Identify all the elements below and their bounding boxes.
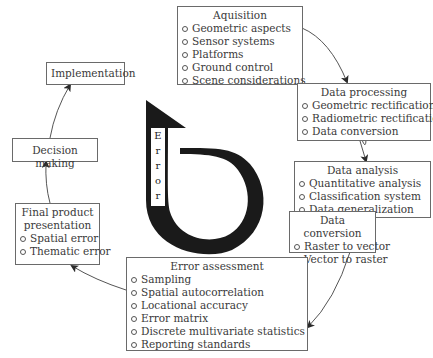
bullet-icon xyxy=(302,103,308,109)
bullet-icon xyxy=(302,129,308,135)
list-item: Radiometric rectification xyxy=(302,112,426,125)
data-conversion-box: Data conversion Raster to vector Vector … xyxy=(289,211,376,253)
bullet-icon xyxy=(294,244,300,250)
decision-making-title: Decision making xyxy=(17,144,93,170)
bullet-icon xyxy=(131,277,137,283)
list-item: Reporting standards xyxy=(131,338,303,351)
bullet-icon xyxy=(131,342,137,348)
list-item: Sensor systems xyxy=(182,35,298,48)
acquisition-box: Aquisition Geometric aspects Sensor syst… xyxy=(177,6,303,85)
bullet-icon xyxy=(299,194,305,200)
decision-making-box: Decision making xyxy=(12,138,98,162)
list-item: Thematic error xyxy=(20,245,95,258)
list-item: Sampling xyxy=(131,273,303,286)
bullet-icon xyxy=(182,52,188,58)
bullet-icon xyxy=(182,78,188,84)
implementation-box: Implementation xyxy=(46,62,125,85)
bullet-icon xyxy=(182,26,188,32)
final-product-box: Final product presentation Spatial error… xyxy=(15,203,100,265)
error-assessment-box: Error assessment Sampling Spatial autoco… xyxy=(126,257,308,351)
final-product-title-2: presentation xyxy=(20,219,95,232)
bullet-icon xyxy=(20,249,26,255)
data-analysis-box: Data analysis Quantitative analysis Clas… xyxy=(294,161,431,218)
list-item: Spatial autocorrelation xyxy=(131,286,303,299)
bullet-icon xyxy=(302,116,308,122)
implementation-title: Implementation xyxy=(51,67,120,80)
error-assessment-title: Error assessment xyxy=(131,260,303,273)
bullet-icon xyxy=(182,39,188,45)
data-processing-box: Data processing Geometric rectification … xyxy=(297,83,431,141)
bullet-icon xyxy=(20,236,26,242)
list-item: Locational accuracy xyxy=(131,299,303,312)
list-item: Data conversion xyxy=(302,125,426,138)
data-conversion-title: Data conversion xyxy=(294,214,371,240)
list-item: Geometric rectification xyxy=(302,99,426,112)
bullet-icon xyxy=(131,316,137,322)
bullet-icon xyxy=(131,303,137,309)
list-item: Spatial error xyxy=(20,232,95,245)
list-item: Quantitative analysis xyxy=(299,177,426,190)
bullet-icon xyxy=(182,65,188,71)
list-item: Discrete multivariate statistics xyxy=(131,325,303,338)
list-item: Classification system xyxy=(299,190,426,203)
bullet-icon xyxy=(299,181,305,187)
acquisition-title: Aquisition xyxy=(182,9,298,22)
final-product-title-1: Final product xyxy=(20,206,95,219)
bullet-icon xyxy=(131,290,137,296)
bullet-icon xyxy=(131,329,137,335)
list-item: Ground control xyxy=(182,61,298,74)
list-item: Scene considerations xyxy=(182,74,298,87)
list-item: Raster to vector xyxy=(294,240,371,253)
list-item: Platforms xyxy=(182,48,298,61)
list-item: Error matrix xyxy=(131,312,303,325)
error-label: E r r o r xyxy=(151,128,165,206)
data-analysis-title: Data analysis xyxy=(299,164,426,177)
data-processing-title: Data processing xyxy=(302,86,426,99)
list-item: Geometric aspects xyxy=(182,22,298,35)
